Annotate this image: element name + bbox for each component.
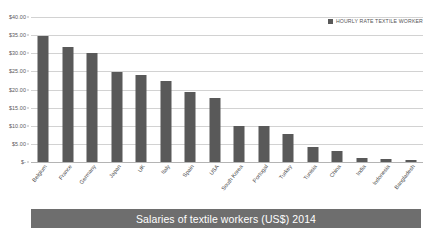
bar[interactable]	[185, 92, 196, 162]
x-axis-label-slot: Italy	[154, 163, 179, 208]
bar[interactable]	[62, 47, 73, 162]
legend-swatch-icon	[328, 19, 333, 24]
x-axis-tick-label-text: Portugal	[251, 163, 269, 183]
y-axis-tick-mark	[27, 125, 29, 126]
legend-label: HOURLY RATE TEXTILE WORKER	[336, 18, 423, 24]
x-axis-tick-label-text: China	[328, 163, 342, 178]
y-axis-tick-label: $40.00	[9, 14, 26, 20]
x-axis-tick-label-text: France	[57, 163, 72, 180]
y-axis-tick-label: $25.00	[9, 68, 26, 74]
y-axis-tick-label: $-	[21, 159, 26, 165]
bar-slot	[31, 17, 56, 162]
x-axis-tick-label-text: Italy	[160, 163, 171, 175]
x-axis-label-slot: Germany	[80, 163, 105, 208]
x-axis-label-slot: India	[350, 163, 375, 208]
bar-slot	[325, 17, 350, 162]
x-axis-tick-label-text: Spain	[182, 163, 196, 178]
x-axis-label-slot: Spain	[178, 163, 203, 208]
x-axis-tick-label-text: Indonesia	[372, 163, 392, 186]
y-axis-tick-label: $5.00	[12, 141, 26, 147]
x-axis-label-slot: Turkey	[276, 163, 301, 208]
y-axis-tick-label: $35.00	[9, 32, 26, 38]
x-axis-label-slot: China	[325, 163, 350, 208]
x-axis-label-slot: Belgium	[31, 163, 56, 208]
x-axis-label-slot: UK	[129, 163, 154, 208]
bar-slot	[203, 17, 228, 162]
bar-slot	[252, 17, 277, 162]
chart-title-banner: Salaries of textile workers (US$) 2014	[31, 209, 421, 228]
bar[interactable]	[160, 81, 171, 162]
y-axis-tick-mark	[27, 89, 29, 90]
bar-slot	[227, 17, 252, 162]
x-axis-tick-label-text: UK	[137, 163, 147, 173]
bar-slot	[178, 17, 203, 162]
bar-slot	[399, 17, 424, 162]
y-axis-tick-mark	[27, 107, 29, 108]
bars	[31, 17, 423, 162]
bar[interactable]	[209, 98, 220, 162]
x-axis-label-slot: Tunisia	[301, 163, 326, 208]
bar-slot	[129, 17, 154, 162]
chart-title: Salaries of textile workers (US$) 2014	[136, 213, 316, 225]
y-axis-tick-mark	[27, 143, 29, 144]
bar-slot	[105, 17, 130, 162]
y-axis: $40.00$35.00$30.00$25.00$20.00$15.00$10.…	[0, 17, 29, 162]
x-axis-label-slot: Bangladesh	[399, 163, 424, 208]
x-axis-label-slot: Portugal	[252, 163, 277, 208]
bar-slot	[350, 17, 375, 162]
x-axis-label-slot: France	[56, 163, 81, 208]
x-axis-tick-label-text: Germany	[78, 163, 97, 185]
x-axis-label-slot: South Korea	[227, 163, 252, 208]
y-axis-tick-label: $10.00	[9, 123, 26, 129]
y-axis-tick-mark	[27, 53, 29, 54]
bar[interactable]	[111, 72, 122, 162]
x-axis-tick-label-text: Turkey	[278, 163, 293, 180]
y-axis-tick-label: $15.00	[9, 105, 26, 111]
x-axis-tick-label-text: USA	[208, 163, 220, 176]
x-axis: BelgiumFranceGermanyJapanUKItalySpainUSA…	[31, 163, 423, 208]
y-axis-tick-mark	[27, 35, 29, 36]
y-axis-tick-label: $20.00	[9, 87, 26, 93]
bar[interactable]	[136, 75, 147, 162]
legend: HOURLY RATE TEXTILE WORKER	[328, 18, 423, 24]
bar-slot	[80, 17, 105, 162]
bar[interactable]	[87, 53, 98, 162]
y-axis-tick-mark	[27, 71, 29, 72]
x-axis-label-slot: Japan	[105, 163, 130, 208]
bar-slot	[301, 17, 326, 162]
bar[interactable]	[38, 36, 49, 163]
x-axis-tick-label-text: Japan	[108, 163, 122, 179]
bar-slot	[276, 17, 301, 162]
bar-slot	[56, 17, 81, 162]
plot-area	[31, 17, 423, 162]
bar-slot	[154, 17, 179, 162]
y-axis-tick-mark	[27, 17, 29, 18]
bar-slot	[374, 17, 399, 162]
bar-chart: $40.00$35.00$30.00$25.00$20.00$15.00$10.…	[0, 0, 429, 238]
y-axis-tick-label: $30.00	[9, 50, 26, 56]
x-axis-tick-label-text: Tunisia	[302, 163, 318, 181]
x-axis-tick-label-text: India	[355, 163, 367, 176]
y-axis-tick-mark	[27, 162, 29, 163]
x-axis-tick-label-text: Belgium	[31, 163, 48, 183]
